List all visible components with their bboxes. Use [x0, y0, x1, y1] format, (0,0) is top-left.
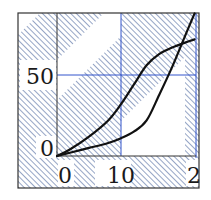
y-tick-50: 50	[26, 64, 54, 89]
x-tick-0: 0	[58, 163, 72, 188]
y-tick-0: 0	[40, 136, 54, 161]
x-tick-10: 10	[107, 163, 135, 188]
x-tick-20: 2	[187, 163, 201, 188]
chart: 50 0 0 10 2	[0, 0, 211, 200]
